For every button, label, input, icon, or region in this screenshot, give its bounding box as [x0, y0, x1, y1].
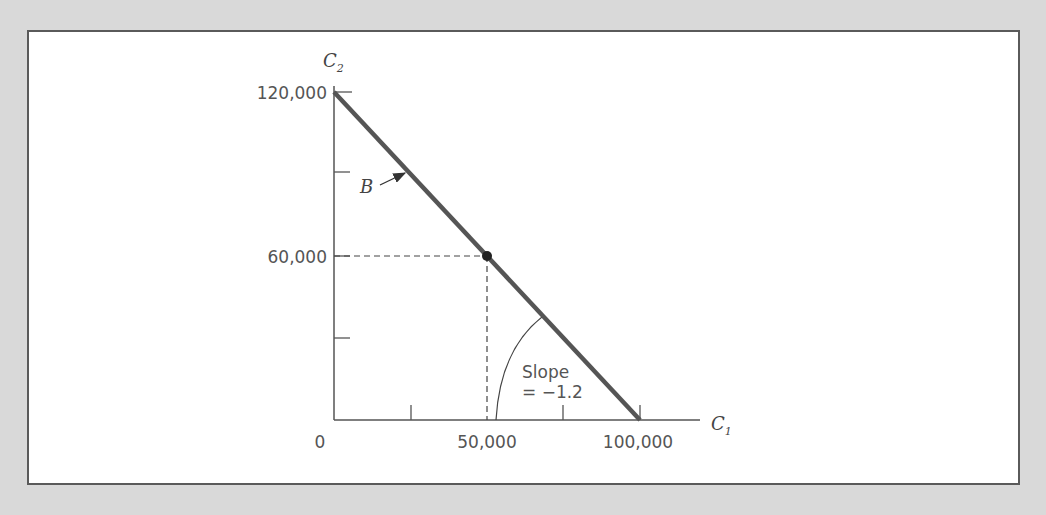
budget-line-diagram: C2 C1 120,000 60,000 0 50,000 100,000 B … — [0, 0, 1046, 515]
data-point — [482, 251, 492, 261]
slope-label-line2: = −1.2 — [522, 382, 583, 402]
origin-label: 0 — [315, 432, 326, 452]
b-pointer-arrow — [380, 173, 405, 185]
x-tick-label-end: 100,000 — [603, 432, 673, 452]
y-tick-label-top: 120,000 — [257, 83, 327, 103]
y-tick-label-mid: 60,000 — [268, 247, 327, 267]
x-axis-label: C1 — [711, 413, 732, 438]
y-axis-label: C2 — [323, 50, 344, 75]
x-tick-label-mid: 50,000 — [457, 432, 516, 452]
slope-label-line1: Slope — [522, 362, 569, 382]
line-name-label: B — [359, 176, 373, 197]
